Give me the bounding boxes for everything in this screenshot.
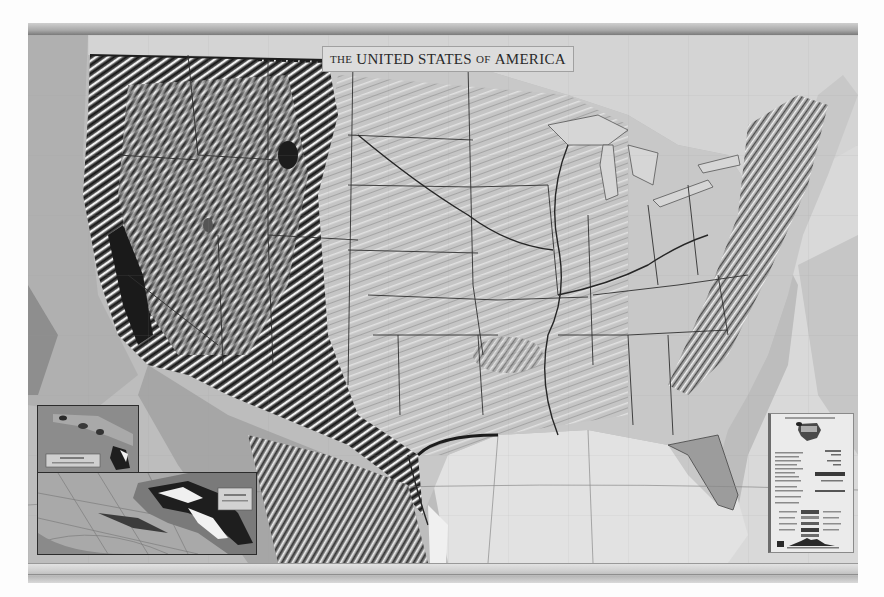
map-title: The UNITED STATES of AMERICA <box>322 46 574 72</box>
hawaii-inset <box>37 405 139 474</box>
hawaii-inset-label-box <box>46 454 100 467</box>
map-legend <box>768 413 854 553</box>
alaska-inset <box>37 472 257 555</box>
hawaii-map-graphic <box>38 406 138 473</box>
legend-scale-bar <box>815 472 845 476</box>
alaska-inset-label-box <box>218 488 252 510</box>
map-title-of: of <box>476 53 491 65</box>
map-title-suffix: AMERICA <box>495 51 566 68</box>
alaska-map-graphic <box>38 473 256 554</box>
map-hanging-rail-bottom <box>28 563 858 583</box>
legend-graphic <box>771 414 850 552</box>
map-title-main: UNITED STATES <box>356 51 472 68</box>
publisher-logo <box>777 541 784 547</box>
rail-groove <box>28 574 858 575</box>
map-title-prefix: The <box>330 53 352 65</box>
